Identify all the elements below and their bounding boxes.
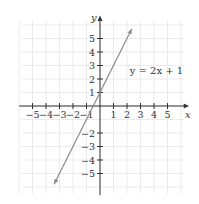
y-axis-arrow-icon (98, 16, 103, 21)
y-tick-label: −4 (81, 155, 95, 166)
grid-lines (19, 21, 184, 194)
x-tick-label: −3 (52, 109, 66, 120)
x-tick-label: 5 (164, 109, 170, 120)
x-tick-label: 2 (124, 109, 130, 120)
x-axis-label: x (185, 109, 191, 120)
x-tick-label: 3 (137, 109, 143, 120)
y-tick-label: −2 (81, 128, 95, 139)
y-tick-label: 4 (89, 47, 95, 58)
x-tick-label: −4 (39, 109, 53, 120)
y-axis-label: y (90, 12, 97, 23)
y-tick-label: 3 (89, 60, 95, 71)
axes (19, 16, 189, 196)
y-tick-label: 5 (89, 33, 95, 44)
y-tick-label: −5 (81, 168, 95, 179)
x-tick-label: 1 (110, 109, 116, 120)
line-chart: −5−4−3−2−112345−5−4−3−212345 x y y = 2x … (0, 0, 199, 204)
x-tick-label: 4 (151, 109, 157, 120)
y-tick-label: 1 (89, 87, 95, 98)
x-tick-label: −2 (66, 109, 80, 120)
x-axis-arrow-icon (184, 104, 189, 109)
y-tick-label: 2 (89, 74, 95, 85)
x-tick-label: −5 (25, 109, 39, 120)
y-tick-label: −3 (81, 141, 95, 152)
equation-label: y = 2x + 1 (129, 65, 184, 76)
